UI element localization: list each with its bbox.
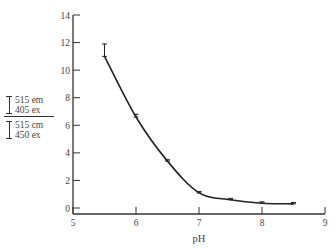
y-tick-label: 12 [61, 38, 71, 48]
y-tick-label: 8 [65, 93, 70, 103]
fit-curve [105, 56, 294, 204]
y-tick-label: 0 [65, 204, 70, 214]
x-tick-label: 8 [260, 218, 265, 228]
x-tick-label: 9 [323, 218, 328, 228]
data-points [102, 44, 296, 204]
x-axis-title: pH [193, 233, 206, 244]
x-tick-label: 6 [134, 218, 139, 228]
y-tick-label: 2 [65, 176, 70, 186]
axes: 0246810121456789 [61, 11, 328, 229]
data-point [102, 44, 107, 56]
y-tick-label: 10 [61, 66, 71, 76]
y-tick-label: 14 [61, 11, 71, 21]
y-tick-label: 4 [65, 148, 70, 158]
x-tick-label: 5 [71, 218, 76, 228]
data-point [165, 160, 170, 161]
y-tick-label: 6 [65, 121, 70, 131]
x-tick-label: 7 [197, 218, 202, 228]
data-point [134, 114, 139, 117]
chart-plot: 0246810121456789 pH [0, 0, 336, 249]
